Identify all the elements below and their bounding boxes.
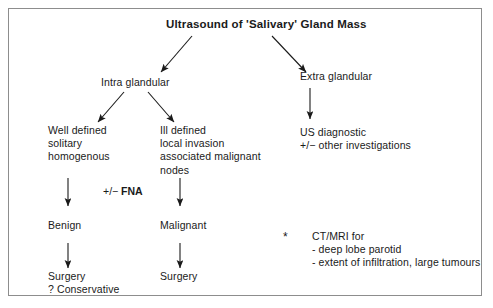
node-malignant: Malignant [160,219,206,232]
diagram-title: Ultrasound of 'Salivary' Gland Mass [166,17,367,31]
node-intra-glandular: Intra glandular [101,76,170,89]
fna-bold: FNA [121,185,143,197]
footnote-ct-mri: CT/MRI for - deep lobe parotid - extent … [312,230,480,270]
node-extra-glandular: Extra glandular [300,70,372,83]
footnote-marker: * [283,231,288,243]
diagram-canvas: Ultrasound of 'Salivary' Gland Mass Intr… [0,0,493,308]
label-fna: +/− FNA [103,185,143,198]
node-surgery: Surgery [160,270,197,283]
node-well-defined-solitary-homogenous: Well defined solitary homogenous [48,124,110,164]
node-surgery-conservative: Surgery ? Conservative [48,270,119,296]
node-benign: Benign [48,219,81,232]
node-us-diagnostic: US diagnostic +/− other investigations [300,126,411,152]
node-ill-defined-local-invasion: Ill defined local invasion associated ma… [160,124,261,177]
fna-prefix: +/− [103,185,121,197]
